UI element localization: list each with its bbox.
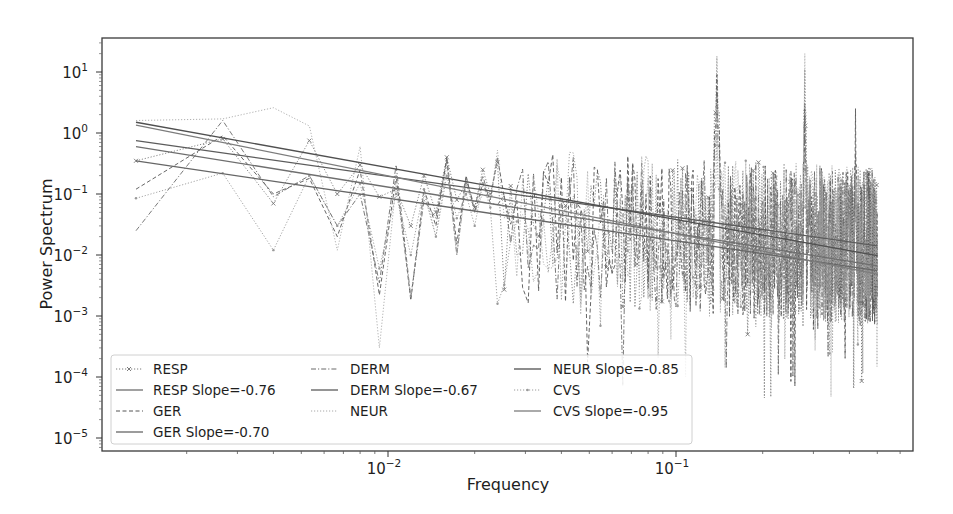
dot-marker: [456, 217, 458, 219]
dot-marker: [676, 305, 678, 307]
dot-marker: [638, 307, 640, 309]
dot-marker: [795, 279, 797, 281]
dot-marker: [473, 225, 475, 227]
dot-marker: [729, 232, 731, 234]
dot-marker: [785, 310, 787, 312]
y-tick-label: 10−1: [53, 183, 88, 204]
legend-label: DERM: [350, 361, 390, 377]
dot-marker: [860, 299, 862, 301]
dot-marker: [758, 282, 760, 284]
x-marker: [509, 184, 513, 188]
dot-marker: [810, 281, 812, 283]
dot-marker: [857, 343, 859, 345]
dot-marker: [847, 246, 849, 248]
x-axis-ticks: 10−210−1: [187, 451, 900, 478]
dot-marker: [833, 203, 835, 205]
legend-label: NEUR Slope=-0.85: [553, 361, 679, 377]
dot-marker: [465, 193, 467, 195]
x-marker: [756, 160, 760, 164]
dot-marker: [503, 283, 505, 285]
dot-marker: [684, 194, 686, 196]
legend-label: CVS: [553, 382, 580, 398]
dot-marker: [875, 282, 877, 284]
y-axis-label: Power Spectrum: [37, 179, 56, 310]
x-marker: [307, 139, 311, 143]
dot-marker: [446, 174, 448, 176]
dot-marker: [762, 166, 764, 168]
dot-marker: [668, 300, 670, 302]
dot-marker: [272, 249, 274, 251]
dot-marker: [712, 289, 714, 291]
power-spectrum-figure: 10−210−1 10110010−110−210−310−410−5 Freq…: [0, 0, 953, 514]
dot-marker: [849, 257, 851, 259]
x-marker: [771, 171, 775, 175]
dot-marker: [853, 296, 855, 298]
x-marker: [409, 224, 413, 228]
dot-marker: [706, 248, 708, 250]
dot-marker: [778, 270, 780, 272]
x-marker: [537, 234, 541, 238]
dot-marker: [754, 257, 756, 259]
dot-marker: [815, 314, 817, 316]
legend-label: RESP: [153, 361, 188, 377]
dot-marker: [844, 187, 846, 189]
legend-label: CVS Slope=-0.95: [553, 403, 668, 419]
legend: RESPRESP Slope=-0.76GERGER Slope=-0.70DE…: [111, 355, 692, 444]
y-tick-label: 10−5: [53, 427, 88, 448]
plot-series: [134, 54, 879, 398]
x-axis-label: Frequency: [467, 475, 550, 494]
dot-marker: [336, 225, 338, 227]
dot-marker: [627, 250, 629, 252]
dot-marker: [410, 254, 412, 256]
dot-marker: [774, 184, 776, 186]
dot-marker: [378, 267, 380, 269]
slope-line-derm: [136, 141, 877, 246]
dot-marker: [509, 239, 511, 241]
dot-marker: [699, 264, 701, 266]
legend-label: GER Slope=-0.70: [153, 424, 269, 440]
dot-marker: [842, 226, 844, 228]
dot-marker: [745, 159, 747, 161]
dot-marker: [807, 248, 809, 250]
x-tick-label: 10−2: [367, 457, 402, 478]
dot-marker: [599, 324, 601, 326]
slope-line-neur: [136, 122, 877, 255]
dot-marker: [740, 306, 742, 308]
dot-marker: [828, 352, 830, 354]
dot-marker: [583, 253, 585, 255]
dot-marker: [659, 266, 661, 268]
dot-marker: [866, 255, 868, 257]
y-axis-ticks: 10110010−110−210−310−410−5: [53, 43, 102, 448]
chart-canvas: 10−210−1 10110010−110−210−310−410−5 Freq…: [0, 0, 953, 514]
dot-marker: [801, 292, 803, 294]
dot-marker: [496, 303, 498, 305]
y-tick-label: 10−2: [53, 244, 88, 265]
dot-marker: [614, 179, 616, 181]
dot-marker: [804, 206, 806, 208]
legend-label: DERM Slope=-0.67: [350, 382, 478, 398]
dot-marker: [516, 220, 518, 222]
dot-marker: [423, 188, 425, 190]
y-tick-label: 10−3: [53, 305, 88, 326]
dot-marker: [724, 161, 726, 163]
dot-marker: [823, 240, 825, 242]
dot-marker: [871, 240, 873, 242]
dot-marker: [718, 188, 720, 190]
dot-marker: [840, 179, 842, 181]
dot-marker: [735, 238, 737, 240]
dot-marker: [788, 279, 790, 281]
dot-marker: [692, 276, 694, 278]
dot-marker: [813, 273, 815, 275]
dot-marker: [781, 214, 783, 216]
dot-marker: [873, 179, 875, 181]
x-marker: [271, 201, 275, 205]
slope-line-resp: [136, 147, 877, 266]
series-resp-line: [136, 56, 877, 398]
y-tick-label: 101: [62, 61, 88, 82]
dot-marker: [818, 306, 820, 308]
x-tick-label: 10−1: [655, 457, 690, 478]
dot-marker: [770, 177, 772, 179]
dot-marker: [649, 294, 651, 296]
legend-label: NEUR: [350, 403, 388, 419]
y-tick-label: 10−4: [53, 366, 88, 387]
